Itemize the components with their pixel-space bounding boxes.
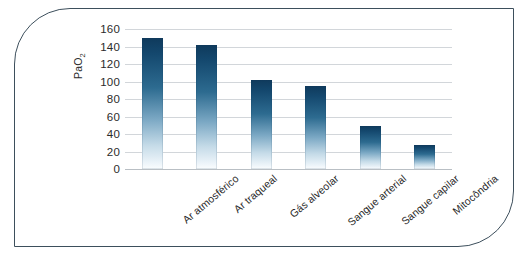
x-axis-label: Ar atmosférico xyxy=(180,172,241,226)
bar xyxy=(196,45,217,169)
bar xyxy=(305,86,326,169)
chart-screenshot: PaO2 160140120100806040200 Ar atmosféric… xyxy=(0,0,530,260)
y-axis-tick-label: 100 xyxy=(86,76,120,88)
y-axis-tick-label: 20 xyxy=(86,146,120,158)
x-axis-label: Gás alveolar xyxy=(287,172,341,220)
bar xyxy=(360,126,381,169)
y-axis-ticks: 160140120100806040200 xyxy=(82,29,120,169)
y-axis-tick-label: 160 xyxy=(86,23,120,35)
y-axis-tick-label: 80 xyxy=(86,93,120,105)
y-axis-tick-label: 140 xyxy=(86,41,120,53)
y-axis-tick-label: 60 xyxy=(86,111,120,123)
x-axis-labels: Ar atmosféricoAr traquealGás alveolarSan… xyxy=(125,172,452,242)
bar xyxy=(251,80,272,169)
bar xyxy=(142,38,163,169)
x-axis-label: Sangue arterial xyxy=(345,172,408,228)
y-axis-tick-label: 40 xyxy=(86,128,120,140)
bar-series xyxy=(125,29,452,169)
bar xyxy=(414,145,435,169)
y-axis-tick-label: 120 xyxy=(86,58,120,70)
y-axis-tick-label: 0 xyxy=(86,163,120,175)
plot-area xyxy=(125,29,452,169)
axis-baseline xyxy=(125,169,452,170)
